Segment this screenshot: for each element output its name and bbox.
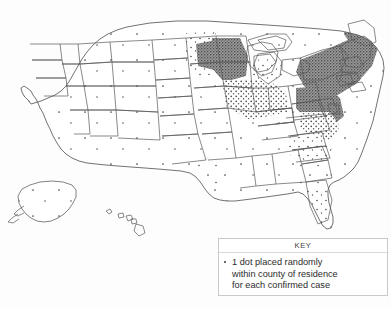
density-alaska	[10, 175, 90, 235]
legend-body: 1 dot placed randomly within county of r…	[219, 253, 387, 292]
legend-line-3: for each confirmed case	[232, 280, 338, 292]
legend-dot-glyph	[224, 261, 226, 263]
density-washington	[24, 28, 60, 44]
legend-text: 1 dot placed randomly within county of r…	[232, 257, 338, 292]
us-dot-density-map: KEY 1 dot placed randomly within county …	[0, 0, 391, 309]
legend-line-1: 1 dot placed randomly	[232, 257, 338, 269]
legend-line-2: within county of residence	[232, 269, 338, 281]
dot-marker-icon	[223, 257, 232, 292]
map-legend: KEY 1 dot placed randomly within county …	[218, 238, 388, 296]
legend-title: KEY	[219, 239, 387, 253]
